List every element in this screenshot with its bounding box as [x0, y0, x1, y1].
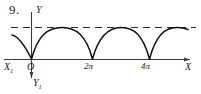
curve-arch-2 [93, 28, 150, 60]
curve-arch-1 [32, 28, 93, 60]
math-figure: 9. Y Y1 X X1 O 2π 4π [0, 0, 201, 94]
problem-number: 9. [9, 3, 20, 16]
curve-arch-3 [150, 28, 189, 60]
tick-label-4pi: 4π [141, 62, 150, 71]
x-axis-label: X [185, 62, 191, 72]
x-negative-axis-subscript: 1 [10, 67, 13, 74]
y-negative-axis-label: Y1 [33, 78, 42, 91]
origin-label: O [27, 62, 34, 72]
x-negative-axis-label: X1 [4, 62, 13, 75]
curve-arch-partial-left [12, 35, 32, 59]
y-axis-label: Y [36, 5, 42, 15]
y-negative-axis-subscript: 1 [39, 83, 42, 90]
tick-label-2pi: 2π [84, 62, 93, 71]
plot-canvas [0, 0, 201, 94]
